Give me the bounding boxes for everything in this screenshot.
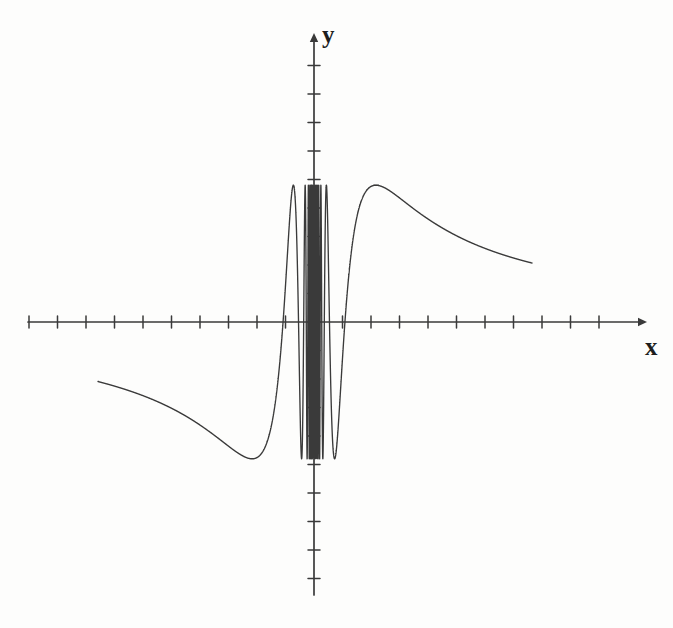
x-axis-label: x (645, 334, 658, 359)
axes-group (28, 33, 647, 595)
x-axis (28, 316, 647, 328)
y-axis-label: y (322, 22, 335, 47)
coordinate-plot (0, 0, 673, 628)
figure-canvas: y x (0, 0, 673, 628)
